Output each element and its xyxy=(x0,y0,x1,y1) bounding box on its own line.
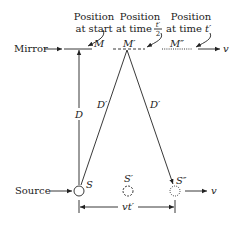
source-s-circle xyxy=(74,186,84,196)
diagonal-path-up xyxy=(81,50,127,185)
source-s-double-prime-circle xyxy=(170,186,180,196)
distance-d-label: D xyxy=(74,109,83,120)
source-label: Source xyxy=(15,185,51,196)
position-half-frac-denominator: 2 xyxy=(156,30,160,38)
mirror-m-label: M xyxy=(93,38,105,49)
pointer-arrow-full xyxy=(196,33,211,47)
mirror-label: Mirror xyxy=(14,43,48,54)
source-s-label: S xyxy=(86,179,93,190)
light-clock-diagram: Position at start Position at time t′ 2 … xyxy=(0,0,236,225)
position-full-time: t′ xyxy=(205,23,212,34)
position-full-label-line2: at time xyxy=(166,23,202,34)
distance-d-prime-left-label: D′ xyxy=(96,99,108,110)
diagonal-path-down xyxy=(127,50,173,184)
position-full-label-line1: Position xyxy=(171,11,212,22)
position-half-label-line1: Position xyxy=(120,11,161,22)
source-s-prime-label: S′ xyxy=(124,173,134,184)
mirror-m-double-prime-label: M″ xyxy=(169,38,184,49)
mirror-velocity-label: v xyxy=(223,43,229,54)
distance-d-prime-right-label: D′ xyxy=(149,99,161,110)
position-start-label-line2: at start xyxy=(75,23,112,34)
position-half-label-line2: at time xyxy=(116,23,152,34)
position-start-label-line1: Position xyxy=(74,11,115,22)
source-velocity-label: v xyxy=(211,185,217,196)
mirror-m-prime-label: M′ xyxy=(122,38,136,49)
position-half-frac-numerator: t′ xyxy=(156,21,161,29)
source-s-double-prime-label: S″ xyxy=(176,175,187,186)
source-s-prime-circle xyxy=(123,186,133,196)
vt-prime-label: vt′ xyxy=(122,201,135,212)
